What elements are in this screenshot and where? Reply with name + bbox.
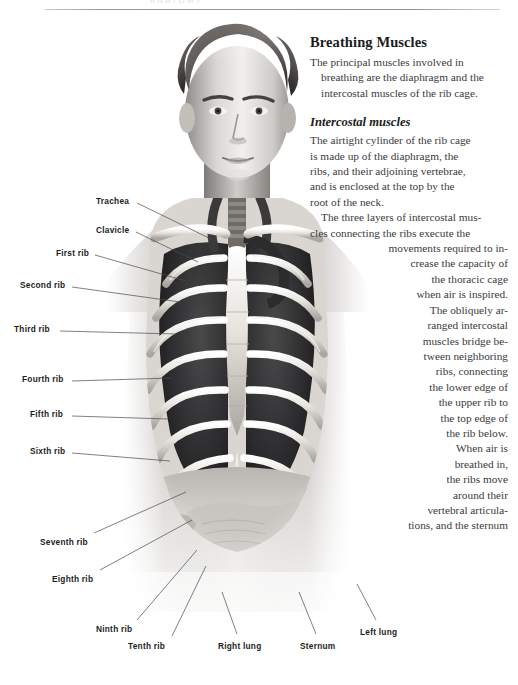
body-line: ranged intercostal bbox=[310, 318, 508, 333]
running-header: ANATOMY bbox=[150, 0, 270, 4]
body-line: ribs, and their adjoining vertebrae, bbox=[310, 164, 508, 179]
body-line: crease the capacity of bbox=[310, 256, 508, 271]
body-line: the upper rib to bbox=[310, 395, 508, 410]
body-line: and is enclosed at the top by the bbox=[310, 179, 508, 194]
body-line: the thoracic cage bbox=[310, 272, 508, 287]
body-paragraph-2: The three layers of intercostal mus- cle… bbox=[310, 210, 508, 534]
article-text: Breathing Muscles The principal muscles … bbox=[310, 34, 508, 534]
label-tenth-rib: Tenth rib bbox=[128, 641, 165, 651]
label-fifth-rib: Fifth rib bbox=[30, 409, 63, 419]
body-line: the ribs move bbox=[310, 472, 508, 487]
body-line: The obliquely ar- bbox=[310, 303, 508, 318]
label-seventh-rib: Seventh rib bbox=[40, 537, 88, 547]
intro-line: intercostal muscles of the rib cage. bbox=[310, 86, 508, 101]
header-rule bbox=[45, 9, 500, 10]
body-line: tween neighboring bbox=[310, 349, 508, 364]
body-line: When air is bbox=[310, 441, 508, 456]
body-line: ribs, connecting bbox=[310, 364, 508, 379]
body-line: breathed in, bbox=[310, 457, 508, 472]
section-subtitle: Intercostal muscles bbox=[310, 115, 508, 130]
body-line: the rib below. bbox=[310, 426, 508, 441]
label-second-rib: Second rib bbox=[20, 280, 65, 290]
body-paragraph-1: The airtight cylinder of the rib cage is… bbox=[310, 133, 508, 210]
label-third-rib: Third rib bbox=[14, 324, 50, 334]
intro-line: The principal muscles involved in bbox=[310, 55, 508, 70]
body-line: tions, and the sternum bbox=[310, 518, 508, 533]
body-line: the top edge of bbox=[310, 411, 508, 426]
label-left-lung: Left lung bbox=[360, 627, 397, 637]
body-line: the lower edge of bbox=[310, 380, 508, 395]
body-line: movements required to in- bbox=[310, 241, 508, 256]
body-line: when air is inspired. bbox=[310, 287, 508, 302]
page: ANATOMY bbox=[0, 0, 518, 685]
label-sixth-rib: Sixth rib bbox=[30, 446, 65, 456]
label-fourth-rib: Fourth rib bbox=[22, 374, 64, 384]
label-clavicle: Clavicle bbox=[96, 225, 129, 235]
intro-line: breathing are the diaphragm and the bbox=[310, 70, 508, 85]
label-trachea: Trachea bbox=[96, 196, 129, 206]
label-first-rib: First rib bbox=[56, 248, 89, 258]
label-sternum: Sternum bbox=[300, 641, 335, 651]
page-title: Breathing Muscles bbox=[310, 34, 508, 51]
body-line: is made up of the diaphragm, the bbox=[310, 149, 508, 164]
body-line: around their bbox=[310, 488, 508, 503]
body-line: root of the neck. bbox=[310, 195, 508, 210]
body-line: cles connecting the ribs execute the bbox=[310, 226, 508, 241]
body-line: muscles bridge be- bbox=[310, 334, 508, 349]
label-eighth-rib: Eighth rib bbox=[52, 574, 93, 584]
body-line: vertebral articula- bbox=[310, 503, 508, 518]
body-line: The airtight cylinder of the rib cage bbox=[310, 133, 508, 148]
body-line: The three layers of intercostal mus- bbox=[310, 210, 508, 225]
intro-paragraph: The principal muscles involved in breath… bbox=[310, 55, 508, 101]
label-right-lung: Right lung bbox=[218, 641, 262, 651]
label-ninth-rib: Ninth rib bbox=[96, 624, 132, 634]
